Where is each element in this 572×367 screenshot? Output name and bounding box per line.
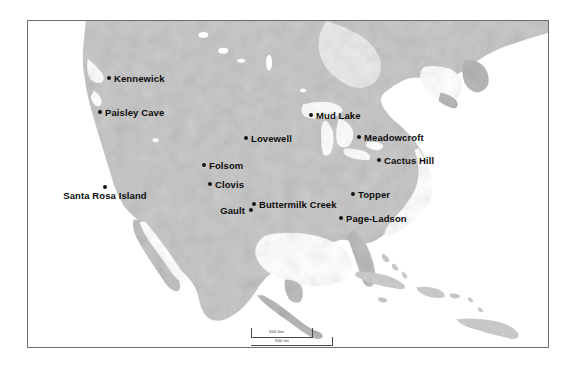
site-dot [351,192,355,196]
site-dot [357,135,361,139]
site-dot [103,185,107,189]
site-dot [309,113,313,117]
scale-km-tick-right [312,328,313,338]
scale-mi-bar [251,345,333,346]
site-label: Kennewick [114,74,165,84]
site-label: Page-Ladson [346,214,407,224]
site-dot [339,216,343,220]
site-label: Clovis [215,180,244,190]
site-dot [208,182,212,186]
site-dot [244,136,248,140]
site-dot [249,208,253,212]
site-label: Lovewell [251,134,292,144]
site-label: Cactus Hill [384,156,434,166]
site-dot [98,110,102,114]
site-label: Topper [358,190,390,200]
scale-bar: 500 km 500 mi [251,328,343,348]
site-label: Mud Lake [316,111,361,121]
site-markers-layer: Kennewick Paisley Cave Santa Rosa Island… [28,21,548,347]
scale-mi-tick-right [332,337,333,346]
site-label: Santa Rosa Island [63,191,147,201]
site-label: Folsom [209,161,243,171]
site-dot [202,163,206,167]
scale-km-label: 500 km [269,330,284,334]
site-dot [252,202,256,206]
site-dot [107,76,111,80]
site-label: Paisley Cave [105,108,164,118]
site-label: Meadowcroft [364,133,424,143]
site-label: Buttermilk Creek [259,200,337,210]
scale-mi-label: 500 mi [275,339,289,343]
map-frame: Kennewick Paisley Cave Santa Rosa Island… [27,20,549,348]
site-dot [377,158,381,162]
site-label: Gault [220,206,245,216]
